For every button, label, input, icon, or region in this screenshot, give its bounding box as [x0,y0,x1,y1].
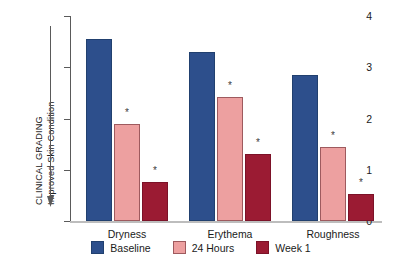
bar [292,75,318,221]
legend-swatch-icon [173,241,186,254]
y-axis-tick [64,67,70,68]
bar [189,52,215,221]
bar [114,124,140,221]
significance-marker: * [153,166,157,176]
bar [348,194,374,221]
x-axis-line [70,221,382,223]
y-axis-tick [64,221,70,222]
legend-label: Baseline [110,242,150,254]
x-axis-category-label: Dryness [108,228,147,240]
significance-marker: * [125,108,129,118]
y-axis-line [70,16,71,221]
legend-label: 24 Hours [192,242,235,254]
y-axis-tick-label: 4 [356,10,372,22]
bar [245,154,271,221]
bar [217,97,243,221]
x-axis-category-label: Roughness [306,228,359,240]
legend-swatch-icon [256,241,269,254]
y-axis-title-line-1: CLINICAL GRADING [34,101,46,205]
legend-item[interactable]: Week 1 [256,241,310,254]
y-axis-tick [64,170,70,171]
y-axis-title-group: CLINICAL GRADING Improved Skin Condition [0,0,46,225]
y-axis-tick [64,119,70,120]
significance-marker: * [359,178,363,188]
y-axis-tick-label: 2 [356,113,372,125]
chart-legend: Baseline24 HoursWeek 1 [0,241,402,254]
y-axis-tick-label: 3 [356,61,372,73]
significance-marker: * [228,81,232,91]
improvement-direction-arrow-icon [46,26,55,208]
legend-item[interactable]: Baseline [91,241,150,254]
significance-marker: * [256,138,260,148]
bar-chart: CLINICAL GRADING Improved Skin Condition… [0,0,402,269]
x-axis-category-label: Erythema [208,228,253,240]
plot-area: 01234 ****** DrynessErythemaRoughness [70,16,382,221]
significance-marker: * [331,131,335,141]
legend-label: Week 1 [275,242,310,254]
legend-item[interactable]: 24 Hours [173,241,235,254]
y-axis-tick-label: 1 [356,164,372,176]
y-axis-tick [64,16,70,17]
bar [320,147,346,221]
legend-swatch-icon [91,241,104,254]
bar [86,39,112,221]
bar [142,182,168,221]
